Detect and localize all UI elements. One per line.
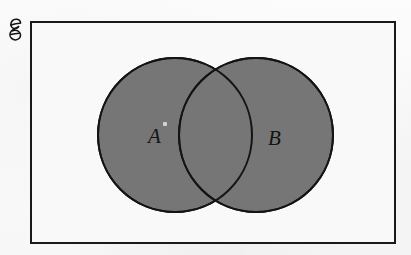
venn-circle-group <box>98 58 333 212</box>
scan-speck-artifact <box>163 122 167 126</box>
set-a-label: A <box>148 126 161 147</box>
venn-diagram-canvas: A B <box>0 0 411 255</box>
set-b-label: B <box>268 128 281 149</box>
venn-circles-svg <box>0 0 411 255</box>
